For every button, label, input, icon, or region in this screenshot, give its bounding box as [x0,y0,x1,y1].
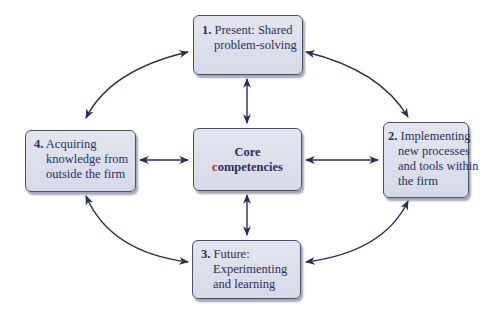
node-label-line: problem-solving [214,38,297,53]
node-number: 3. [201,247,210,261]
node-present-shared-problem-solving: 1. Present: Shared problem-solving [193,15,303,75]
arrow-acquiring-to-future [86,196,188,262]
node-label-line: Acquiring [46,137,97,151]
node-label-line: Present: Shared [215,23,293,37]
node-label-line: Experimenting [213,262,287,277]
node-label-line: Implementing [401,129,471,143]
node-label-line: knowledge from [46,152,128,167]
node-label-line: new processes [398,144,470,159]
node-label-line: the firm [398,174,438,189]
node-label-line: and tools within [398,159,479,174]
center-label-line2: competencies [194,160,301,175]
node-label-line: and learning [213,277,275,292]
node-number: 2. [388,129,397,143]
core-competencies-diagram: 1. Present: Shared problem-solving Core … [0,0,494,314]
node-label-line: Future: [214,247,250,261]
center-label-line1: Core [194,145,301,160]
arrow-implementing-to-future [306,201,408,262]
node-core-competencies: Core competencies [193,128,302,191]
arrow-present-to-implementing [306,52,408,117]
node-label-line: outside the firm [46,167,125,182]
node-future-experimenting: 3. Future: Experimenting and learning [192,240,301,299]
node-implementing-new-processes: 2. Implementing new processes and tools … [383,122,469,198]
arrow-present-to-acquiring [86,52,188,118]
node-number: 4. [34,137,43,151]
node-number: 1. [202,23,211,37]
node-acquiring-knowledge: 4. Acquiring knowledge from outside the … [25,130,136,192]
